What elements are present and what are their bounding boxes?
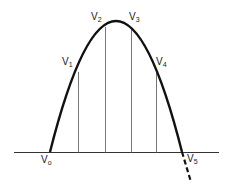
label-v2: V2 (91, 12, 102, 23)
label-v5: V5 (187, 154, 198, 165)
label-v1: V1 (62, 57, 73, 68)
label-v4: V4 (156, 57, 167, 68)
label-v0: Vo (41, 155, 52, 166)
label-v3: V3 (129, 12, 140, 23)
parabola-curve (50, 21, 182, 152)
